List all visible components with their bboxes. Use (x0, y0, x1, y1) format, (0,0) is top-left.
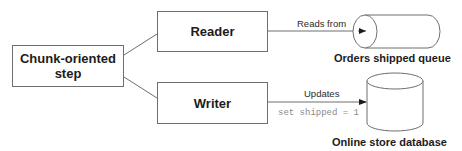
orders-shipped-queue-label: Orders shipped queue (334, 52, 451, 64)
updates-label: Updates (304, 88, 339, 99)
queue-cylinder-icon (353, 15, 440, 48)
online-store-database-label: Online store database (332, 136, 447, 148)
connector-chunk-reader (124, 34, 157, 55)
reader-node: Reader (157, 11, 268, 52)
chunk-step-label-line1: Chunk-oriented (20, 51, 116, 66)
database-cylinder-icon (367, 73, 423, 131)
reader-label: Reader (190, 24, 234, 39)
writer-label: Writer (194, 96, 231, 111)
reads-from-label: Reads from (297, 18, 346, 29)
set-shipped-annotation: set shipped = 1 (278, 108, 359, 118)
chunk-step-label-line2: step (20, 66, 116, 81)
diagram-canvas: Chunk-oriented step Reader Writer Reads … (0, 0, 462, 151)
connector-chunk-writer (124, 77, 157, 98)
chunk-oriented-step-node: Chunk-oriented step (12, 45, 124, 87)
writer-node: Writer (157, 82, 268, 124)
